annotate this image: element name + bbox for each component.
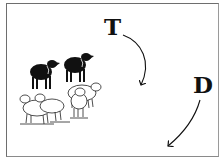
black-sheep-icon (30, 60, 60, 89)
label-t: T (104, 15, 121, 38)
black-sheep-icon (64, 53, 94, 82)
arrow-from-d (168, 100, 200, 146)
label-d: D (193, 73, 213, 96)
arrow-from-t (123, 35, 146, 85)
white-sheep-icon (35, 94, 70, 122)
